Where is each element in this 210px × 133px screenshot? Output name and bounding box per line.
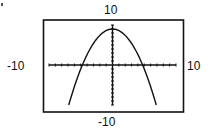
graph-window <box>0 0 210 133</box>
window-frame <box>44 20 184 112</box>
